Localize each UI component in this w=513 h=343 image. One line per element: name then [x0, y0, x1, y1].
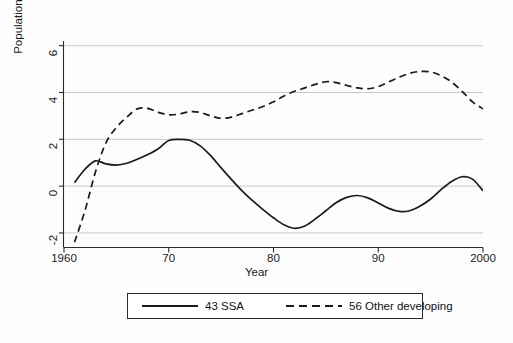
x-axis-title: Year	[0, 266, 513, 278]
chart-canvas	[64, 41, 483, 247]
y-axis-tick-label: 6	[47, 44, 59, 62]
x-axis-tick-label: 1960	[51, 252, 77, 264]
y-axis-tick-labels: -20246	[33, 41, 53, 247]
legend-label: 43 SSA	[205, 300, 244, 312]
y-axis-tick-label: 4	[47, 91, 59, 109]
legend-item-1[interactable]: 56 Other developing	[286, 294, 453, 318]
x-axis-tick-label: 70	[162, 252, 175, 264]
chart-legend: 43 SSA56 Other developing	[127, 293, 423, 319]
legend-solid-line-icon	[142, 305, 198, 307]
x-axis-tick-label: 90	[372, 252, 385, 264]
series-line-0	[74, 139, 483, 228]
y-axis-tick-label: -2	[47, 231, 59, 249]
legend-item-0[interactable]: 43 SSA	[142, 294, 244, 318]
x-axis-tick-label: 80	[267, 252, 280, 264]
plot-area	[64, 41, 483, 247]
y-axis-tick-label: 0	[47, 184, 59, 202]
figure: Population-weighted average, % -20246 19…	[0, 0, 513, 343]
legend-label: 56 Other developing	[349, 300, 453, 312]
x-axis-tick-label: 2000	[470, 252, 496, 264]
data-series-group	[74, 71, 483, 242]
legend-dashed-line-icon	[286, 305, 342, 307]
series-line-1	[74, 71, 483, 242]
y-axis-tick-label: 2	[47, 137, 59, 155]
gridlines	[64, 46, 483, 233]
y-axis-title: Population-weighted average, %	[12, 0, 24, 71]
